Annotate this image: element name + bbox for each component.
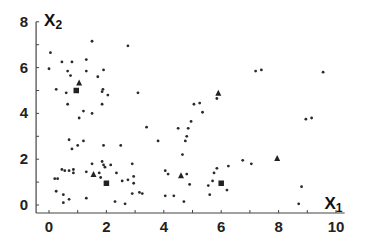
data-point bbox=[114, 200, 117, 203]
data-point bbox=[65, 91, 68, 94]
data-point bbox=[102, 68, 105, 71]
data-point bbox=[72, 168, 75, 171]
data-point bbox=[297, 202, 300, 205]
x-tick-label: 8 bbox=[274, 218, 282, 235]
data-point bbox=[85, 70, 88, 73]
data-point bbox=[127, 44, 130, 47]
data-point bbox=[198, 102, 201, 105]
data-point bbox=[241, 159, 244, 162]
data-point bbox=[185, 135, 188, 138]
data-point bbox=[71, 147, 74, 150]
data-point bbox=[226, 189, 229, 192]
data-point bbox=[185, 173, 188, 176]
data-point bbox=[127, 178, 130, 181]
data-point bbox=[208, 193, 211, 196]
data-point bbox=[68, 169, 71, 172]
data-point bbox=[61, 60, 64, 63]
data-point bbox=[48, 67, 51, 70]
data-point bbox=[82, 139, 85, 142]
y-axis-title-sub: 2 bbox=[55, 18, 62, 32]
data-point bbox=[53, 177, 56, 180]
data-point bbox=[96, 75, 99, 78]
data-point bbox=[56, 177, 59, 180]
x-tick-label: 2 bbox=[102, 218, 110, 235]
x-axis-title-main: X bbox=[325, 194, 337, 213]
data-point bbox=[91, 162, 94, 165]
data-point bbox=[213, 172, 216, 175]
data-point bbox=[101, 103, 104, 106]
data-point bbox=[68, 138, 71, 141]
data-point bbox=[76, 144, 79, 147]
scatter-chart: 024681002468 X2 X1 bbox=[0, 0, 371, 248]
data-point bbox=[254, 70, 257, 73]
data-point bbox=[55, 88, 58, 91]
data-point bbox=[68, 198, 71, 201]
tick-labels: 024681002468 bbox=[20, 13, 345, 235]
data-point bbox=[145, 126, 148, 129]
y-tick-label: 8 bbox=[20, 13, 28, 30]
data-point bbox=[164, 169, 167, 172]
y-tick-label: 6 bbox=[20, 59, 28, 76]
data-point bbox=[62, 201, 65, 204]
data-point bbox=[85, 170, 88, 173]
data-point bbox=[157, 139, 160, 142]
data-point bbox=[172, 194, 175, 197]
y-tick-label: 4 bbox=[20, 104, 29, 121]
data-point bbox=[63, 169, 66, 172]
data-point bbox=[109, 164, 112, 167]
data-point bbox=[78, 117, 81, 120]
points bbox=[48, 40, 325, 205]
x-tick-label: 4 bbox=[160, 218, 169, 235]
data-point bbox=[115, 172, 118, 175]
data-point bbox=[131, 192, 134, 195]
data-point bbox=[201, 111, 204, 114]
triangle-marker bbox=[76, 79, 82, 85]
data-point bbox=[141, 192, 144, 195]
data-point bbox=[71, 60, 74, 63]
ticks bbox=[36, 22, 336, 213]
y-axis-title: X2 bbox=[44, 11, 62, 32]
data-point bbox=[62, 193, 65, 196]
data-point bbox=[304, 118, 307, 121]
data-point bbox=[102, 144, 105, 147]
triangle-marker bbox=[215, 90, 221, 96]
square-marker bbox=[218, 180, 224, 186]
data-point bbox=[101, 160, 104, 163]
x-axis-title-sub: 1 bbox=[336, 201, 343, 215]
data-point bbox=[132, 182, 135, 185]
data-point bbox=[184, 139, 187, 142]
data-point bbox=[300, 185, 303, 188]
x-tick-label: 6 bbox=[217, 218, 225, 235]
data-point bbox=[167, 173, 170, 176]
data-point bbox=[72, 172, 75, 175]
data-point bbox=[124, 202, 127, 205]
data-point bbox=[188, 183, 191, 186]
data-point bbox=[187, 127, 190, 130]
data-point bbox=[227, 165, 230, 168]
data-point bbox=[102, 88, 105, 91]
data-point bbox=[137, 91, 140, 94]
data-point bbox=[69, 74, 72, 77]
y-axis-title-main: X bbox=[44, 11, 56, 30]
data-point bbox=[215, 167, 218, 170]
data-point bbox=[66, 103, 69, 106]
data-point bbox=[121, 180, 124, 183]
triangle-marker bbox=[274, 155, 280, 161]
data-point bbox=[61, 168, 64, 171]
triangle-marker bbox=[90, 171, 96, 177]
data-point bbox=[322, 71, 325, 74]
data-point bbox=[85, 58, 88, 61]
data-point bbox=[119, 144, 122, 147]
y-tick-label: 0 bbox=[20, 196, 28, 213]
data-point bbox=[207, 184, 210, 187]
data-point bbox=[193, 103, 196, 106]
data-point bbox=[66, 70, 69, 73]
data-point bbox=[98, 172, 101, 175]
data-point bbox=[250, 162, 253, 165]
data-point bbox=[49, 51, 52, 54]
data-point bbox=[132, 175, 135, 178]
data-point bbox=[190, 120, 193, 123]
triangle-marker bbox=[178, 172, 184, 178]
square-marker bbox=[74, 88, 80, 94]
data-point bbox=[215, 97, 218, 100]
